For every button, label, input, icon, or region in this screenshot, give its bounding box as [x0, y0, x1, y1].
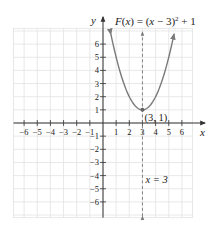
axis-of-symmetry-label: x = 3 — [144, 174, 167, 185]
y-tick-label: 3 — [95, 79, 99, 89]
x-tick-label: −2 — [72, 127, 81, 137]
x-tick-label: −5 — [33, 127, 42, 137]
x-tick-label: −6 — [20, 127, 29, 137]
axes — [14, 17, 205, 218]
y-tick-label: 5 — [95, 52, 99, 62]
y-tick-label: −3 — [90, 157, 99, 167]
y-tick-label: −4 — [90, 171, 100, 181]
x-tick-label: −3 — [59, 127, 68, 137]
y-axis-label: y — [90, 14, 96, 26]
vertex-label: (3, 1) — [144, 112, 167, 124]
y-tick-label: −5 — [90, 184, 99, 194]
x-tick-label: 1 — [114, 127, 118, 137]
parabola-graph: −6−5−4−3−2−1123456654321−1−2−3−4−5−6 (3,… — [0, 0, 217, 232]
y-tick-label: 2 — [95, 92, 99, 102]
x-tick-label: 6 — [180, 127, 184, 137]
y-tick-label: 6 — [95, 39, 99, 49]
x-tick-label: 4 — [153, 127, 158, 137]
x-tick-label: 2 — [127, 127, 131, 137]
y-tick-label: −2 — [90, 144, 99, 154]
y-tick-label: −1 — [90, 131, 99, 141]
y-tick-label: 1 — [95, 105, 99, 115]
y-tick-label: −6 — [90, 197, 99, 207]
function-label: F(x) = (x − 3)2 + 1 — [114, 15, 196, 28]
x-tick-label: 5 — [167, 127, 171, 137]
x-tick-label: −4 — [46, 127, 56, 137]
x-axis-label: x — [199, 126, 205, 138]
